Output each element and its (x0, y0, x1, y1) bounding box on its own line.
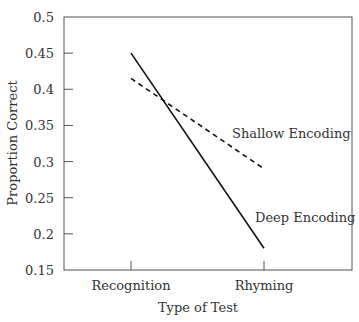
y-tick-label: 0.45 (25, 46, 54, 61)
y-tick-label: 0.3 (33, 155, 54, 170)
y-tick-label: 0.4 (33, 82, 54, 97)
series-label-shallow: Shallow Encoding (232, 126, 351, 141)
y-axis-ticks: 0.150.20.250.30.350.40.450.5 (25, 10, 73, 278)
x-axis-ticks: RecognitionRhyming (91, 261, 293, 293)
series-lines (131, 53, 264, 248)
series-line (131, 78, 264, 168)
y-tick-label: 0.2 (33, 227, 54, 242)
y-axis-label: Proportion Correct (5, 80, 20, 206)
line-chart: 0.150.20.250.30.350.40.450.5 Recognition… (0, 0, 359, 322)
y-tick-label: 0.25 (25, 191, 54, 206)
x-axis-label: Type of Test (158, 300, 239, 315)
plot-frame (64, 17, 352, 270)
series-label-deep: Deep Encoding (255, 210, 355, 225)
x-tick-label: Recognition (91, 278, 171, 293)
y-tick-label: 0.5 (33, 10, 54, 25)
x-tick-label: Rhyming (235, 278, 294, 293)
y-tick-label: 0.35 (25, 118, 54, 133)
y-tick-label: 0.15 (25, 263, 54, 278)
series-line (131, 53, 264, 248)
